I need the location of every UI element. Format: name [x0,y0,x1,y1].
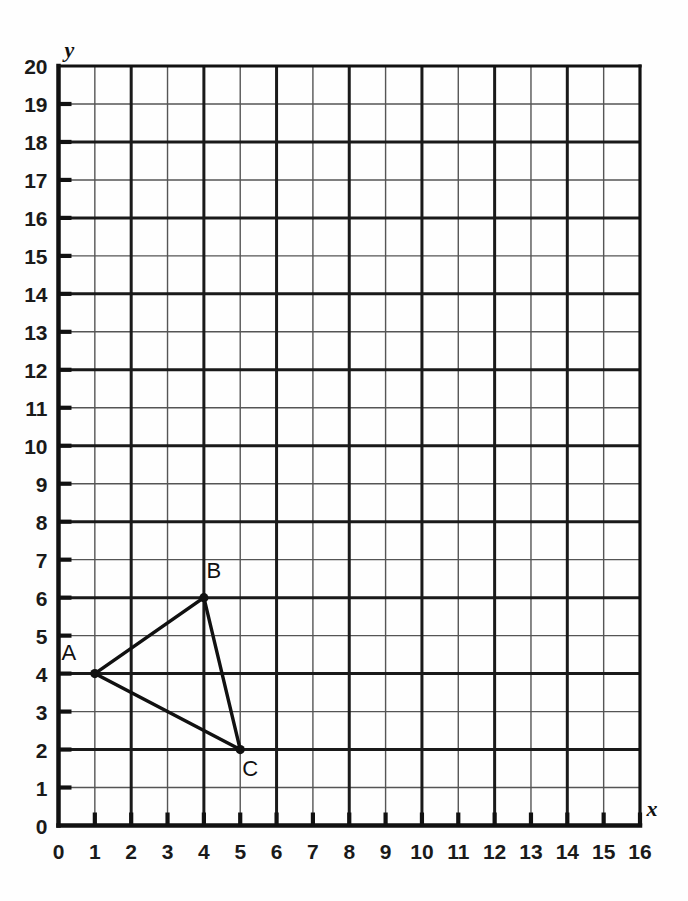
y-tick-label: 15 [24,245,48,268]
x-tick-label: 11 [447,840,470,863]
figure-background [0,0,688,901]
y-tick-label: 4 [36,663,48,686]
x-tick-label: 0 [53,840,65,863]
y-tick-label: 14 [24,283,48,306]
x-tick-label: 1 [89,840,101,863]
point-label-b: B [207,558,222,583]
vertex-point-a [90,669,99,678]
y-tick-label: 7 [36,549,48,572]
x-tick-label: 9 [380,840,392,863]
y-tick-label: 11 [25,397,48,420]
x-tick-label: 12 [483,840,506,863]
coordinate-grid-figure: 012345678910111213141516 012345678910111… [0,0,688,901]
y-tick-label: 8 [36,511,48,534]
x-tick-label: 4 [198,840,210,863]
y-tick-label: 12 [24,359,47,382]
vertex-point-b [199,593,208,602]
x-tick-label: 2 [125,840,137,863]
point-label-a: A [61,640,76,665]
point-label-c: C [242,756,258,781]
y-tick-label: 5 [36,625,48,648]
x-tick-label: 13 [519,840,542,863]
y-tick-label: 18 [24,131,48,154]
x-axis-label: x [646,796,658,821]
x-tick-label: 6 [271,840,283,863]
y-tick-label: 19 [24,93,47,116]
y-tick-label: 20 [24,55,47,78]
x-tick-label: 8 [343,840,355,863]
y-tick-label: 3 [36,701,48,724]
y-tick-label: 6 [36,587,48,610]
y-tick-label: 10 [24,435,47,458]
y-tick-label: 13 [24,321,47,344]
y-tick-label: 17 [24,169,47,192]
vertex-point-c [236,745,245,754]
x-tick-label: 14 [556,840,580,863]
y-tick-label: 16 [24,207,47,230]
grid-plot-svg: 012345678910111213141516 012345678910111… [0,0,688,901]
x-tick-label: 5 [234,840,246,863]
x-tick-label: 15 [592,840,616,863]
y-tick-label: 0 [36,815,48,838]
x-tick-label: 16 [628,840,651,863]
x-tick-label: 3 [162,840,174,863]
y-tick-label: 1 [36,777,48,800]
y-tick-label: 2 [36,739,48,762]
x-tick-label: 7 [307,840,319,863]
x-tick-label: 10 [410,840,433,863]
y-tick-label: 9 [36,473,48,496]
